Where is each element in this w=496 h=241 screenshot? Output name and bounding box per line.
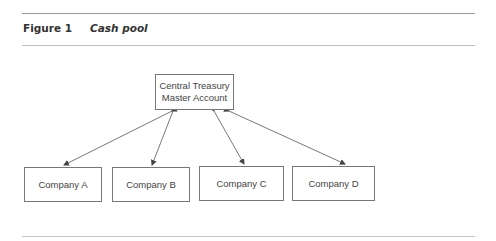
company-d-label: Company D	[308, 178, 358, 190]
arrow-central-company-c	[214, 111, 244, 164]
arrow-central-company-a	[64, 111, 172, 165]
central-treasury-box: Central Treasury Master Account	[155, 74, 234, 110]
company-c-box: Company C	[199, 166, 284, 201]
bottom-rule	[22, 236, 475, 237]
company-a-box: Company A	[24, 167, 102, 202]
arrow-central-company-d	[229, 111, 345, 164]
company-a-label: Company A	[38, 179, 87, 191]
company-b-box: Company B	[112, 167, 190, 202]
central-line1: Central Treasury	[159, 80, 229, 92]
connector-arrows	[0, 0, 496, 241]
company-c-label: Company C	[216, 178, 266, 190]
company-d-box: Company D	[292, 166, 375, 201]
company-b-label: Company B	[126, 179, 176, 191]
central-line2: Master Account	[159, 92, 229, 104]
